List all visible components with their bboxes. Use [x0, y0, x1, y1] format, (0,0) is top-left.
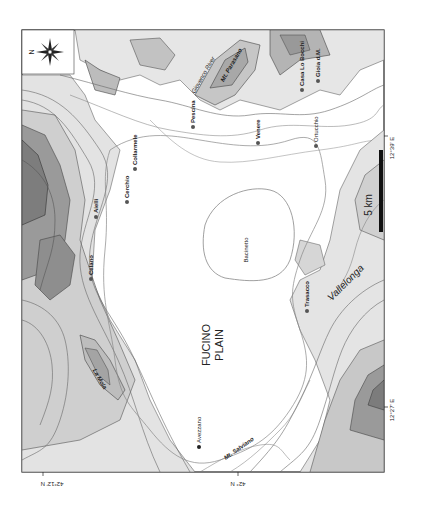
- scale-bar-label: 5 km: [363, 194, 374, 216]
- svg-text:Collarmele: Collarmele: [132, 134, 138, 165]
- compass-rose: N: [22, 30, 74, 74]
- town-gioia-dei-marsi: Gioia d.M.: [315, 48, 321, 83]
- svg-text:Aielli: Aielli: [93, 198, 99, 213]
- lon-label-bottom: 12°27' E: [389, 399, 395, 422]
- topographic-map: N 5 km 42°12' N 42° N 12°39' E 12°27' E …: [0, 0, 422, 514]
- svg-text:Avezzano: Avezzano: [196, 416, 202, 443]
- svg-text:Ortucchio: Ortucchio: [313, 116, 319, 142]
- svg-text:Gioia d.M.: Gioia d.M.: [315, 48, 321, 77]
- lat-label-left: 42°12' N: [41, 481, 64, 487]
- bacinetto-label: Bacinetto: [243, 237, 249, 263]
- town-collarmele: Collarmele: [132, 134, 138, 171]
- lon-label-top: 12°39' E: [389, 137, 395, 160]
- svg-text:Trasacco: Trasacco: [304, 281, 310, 307]
- svg-text:PLAIN: PLAIN: [213, 329, 225, 361]
- svg-text:Casa Lo Bocchi: Casa Lo Bocchi: [299, 41, 305, 86]
- plain-title: FUCINO PLAIN: [200, 323, 225, 366]
- town-casa-lo-bocchi: Casa Lo Bocchi: [299, 41, 305, 92]
- svg-text:Venere: Venere: [255, 119, 261, 139]
- svg-text:Pescina: Pescina: [190, 100, 196, 123]
- svg-text:FUCINO: FUCINO: [200, 323, 212, 366]
- compass-north-label: N: [28, 49, 35, 54]
- svg-text:Cerchio: Cerchio: [124, 175, 130, 198]
- lat-label-right: 42° N: [230, 481, 245, 487]
- svg-text:Celano: Celano: [88, 255, 94, 275]
